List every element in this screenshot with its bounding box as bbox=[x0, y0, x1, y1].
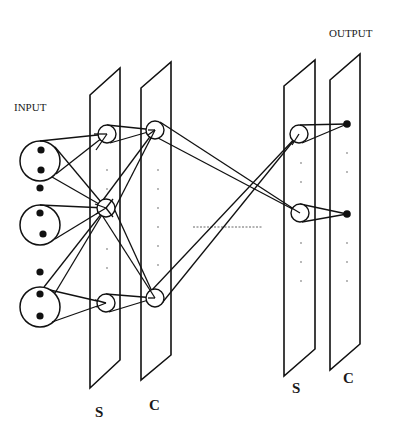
output-label: OUTPUT bbox=[329, 27, 373, 39]
input-group-1 bbox=[20, 141, 60, 181]
plane-ellipsis-dots bbox=[106, 152, 348, 282]
input-group-3 bbox=[20, 287, 60, 327]
c-plane-layer1 bbox=[141, 62, 171, 380]
neural-network-diagram: INPUT OUTPUT S C S C bbox=[0, 0, 397, 438]
s1-to-c1-connections bbox=[100, 125, 155, 312]
input-ellipsis-dot bbox=[36, 268, 43, 275]
input-ellipsis-dot bbox=[36, 184, 43, 191]
input-label: INPUT bbox=[14, 101, 47, 113]
layer1-c-label: C bbox=[149, 397, 160, 413]
input-group-2 bbox=[20, 205, 60, 245]
c1-to-s2-connections bbox=[152, 122, 300, 303]
output-unit-bottom bbox=[343, 210, 351, 218]
connection-tips bbox=[94, 130, 300, 307]
input-to-s1-connections bbox=[40, 134, 107, 322]
layer2-s-label: S bbox=[292, 380, 300, 396]
layer2-c-label: C bbox=[343, 370, 354, 386]
layer1-s-label: S bbox=[95, 404, 103, 420]
output-unit-top bbox=[343, 120, 351, 128]
